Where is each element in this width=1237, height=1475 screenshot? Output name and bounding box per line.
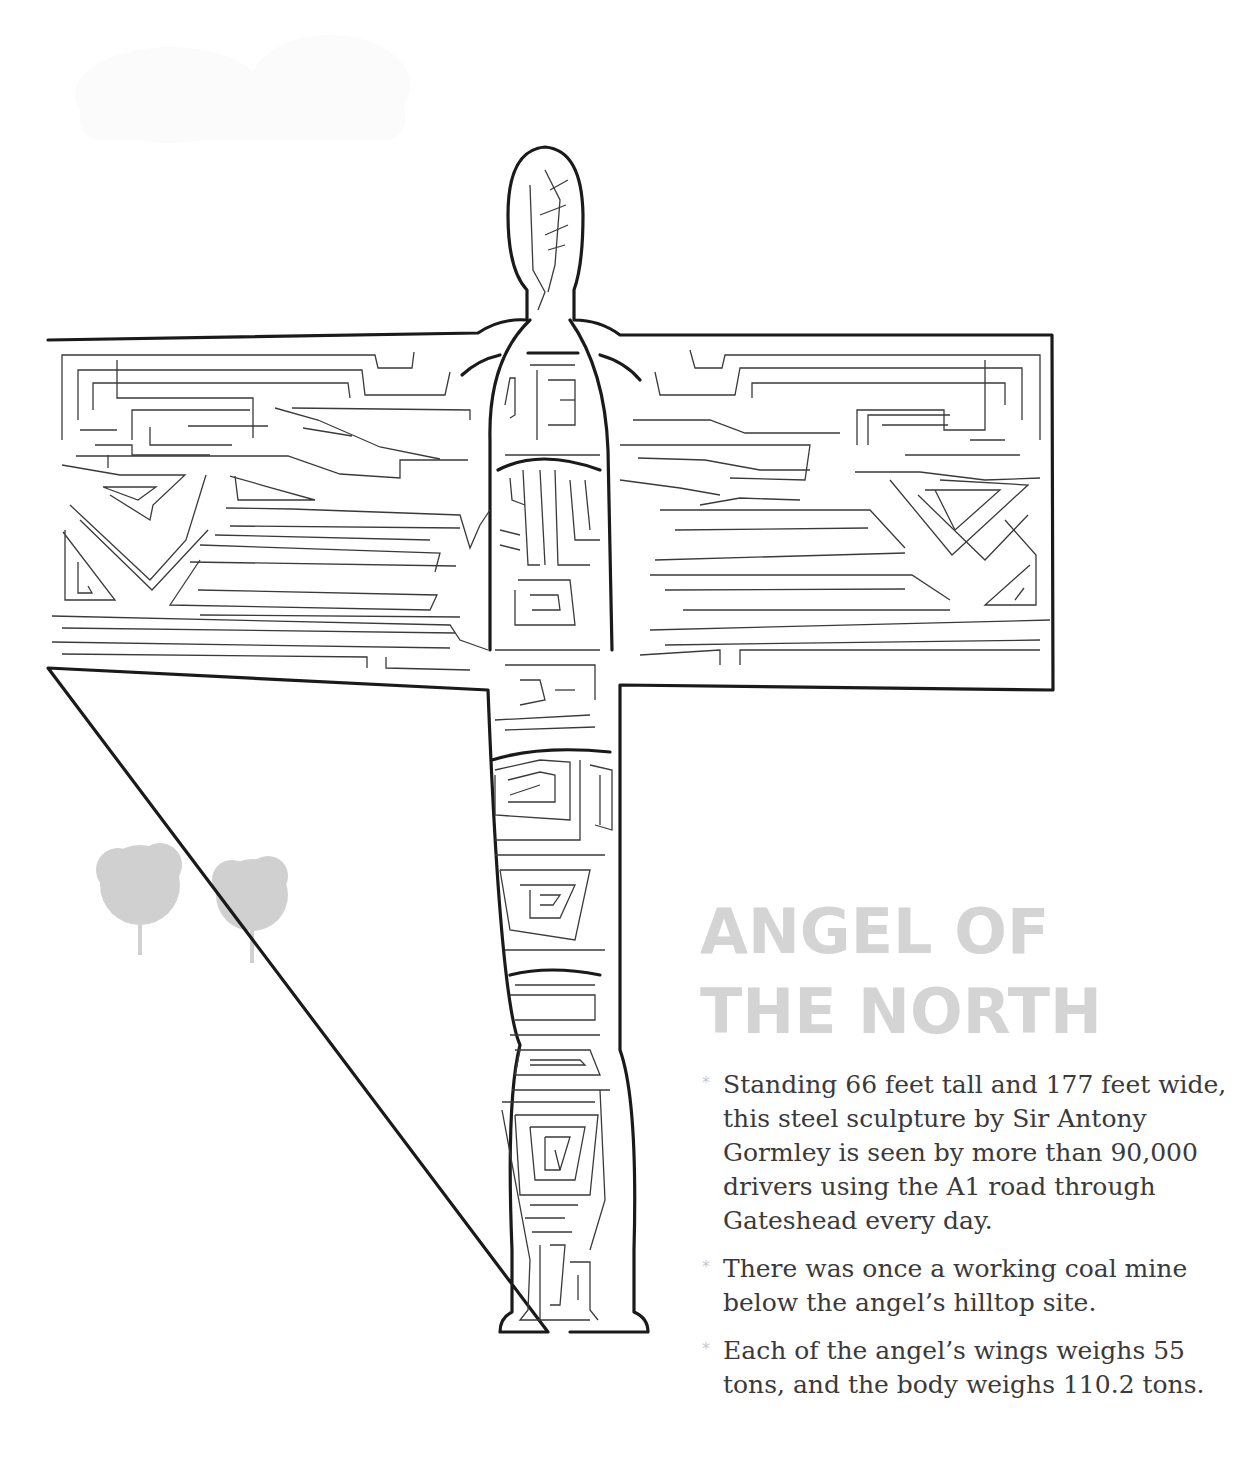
fact-item: * There was once a working coal mine bel…	[702, 1252, 1237, 1320]
asterisk-bullet-icon: *	[702, 1332, 710, 1366]
fact-text: There was once a working coal mine below…	[723, 1254, 1187, 1317]
cloud-icon	[75, 35, 410, 143]
asterisk-bullet-icon: *	[702, 1250, 710, 1284]
facts-list: * Standing 66 feet tall and 177 feet wid…	[702, 1068, 1237, 1416]
asterisk-bullet-icon: *	[702, 1066, 710, 1100]
tree-icon	[96, 843, 182, 955]
fact-text: Each of the angel’s wings weighs 55 tons…	[723, 1336, 1204, 1399]
fact-item: * Each of the angel’s wings weighs 55 to…	[702, 1334, 1237, 1402]
fact-item: * Standing 66 feet tall and 177 feet wid…	[702, 1068, 1237, 1238]
page-title: ANGEL OF THE NORTH	[700, 892, 1102, 1052]
tree-icon	[212, 856, 288, 963]
fact-text: Standing 66 feet tall and 177 feet wide,…	[723, 1070, 1226, 1235]
